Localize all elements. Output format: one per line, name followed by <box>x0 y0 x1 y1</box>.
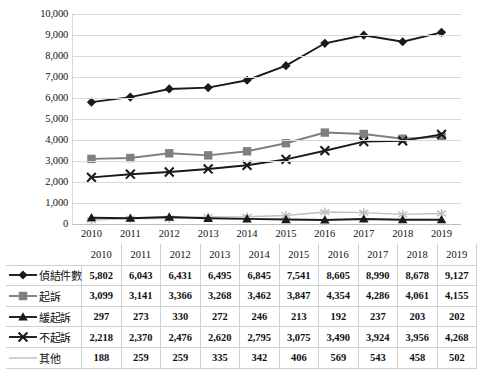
table-value-cell: 297 <box>82 306 122 327</box>
y-axis-tick-label: 9,000 <box>2 30 68 40</box>
line-chart: 10,0009,0008,0007,0006,0005,0004,0003,00… <box>0 0 471 232</box>
legend-label: 偵結件數 <box>39 267 82 283</box>
plot-area <box>72 14 461 224</box>
data-table: 2010201120122013201420152016201720182019… <box>6 244 477 369</box>
table-value-cell: 2,218 <box>82 327 122 348</box>
data-point-diamond <box>165 84 174 93</box>
table-row: 其他188259259335342406569543458502 <box>7 347 477 368</box>
table-value-cell: 9,127 <box>437 265 477 286</box>
table-row: 偵結件數5,8026,0436,4316,4956,8457,5418,6058… <box>7 265 477 286</box>
data-point-diamond <box>18 271 27 280</box>
legend-marker-square <box>8 290 38 302</box>
table-value-cell: 4,286 <box>358 286 398 307</box>
table-header-row: 2010201120122013201420152016201720182019 <box>7 245 477 266</box>
series-square <box>87 128 446 163</box>
legend-cell: 其他 <box>7 347 82 368</box>
y-axis-line <box>72 14 73 225</box>
table-value-cell: 3,924 <box>358 327 398 348</box>
x-axis-tick-label: 2011 <box>111 228 150 239</box>
data-point-diamond <box>281 61 290 70</box>
table-row: 緩起訴297273330272246213192237203202 <box>7 306 477 327</box>
table-value-cell: 2,476 <box>161 327 201 348</box>
table-year-header: 2014 <box>240 245 280 266</box>
table-value-cell: 272 <box>200 306 240 327</box>
series-line <box>91 32 441 102</box>
table-value-cell: 7,541 <box>279 265 319 286</box>
table-value-cell: 6,431 <box>161 265 201 286</box>
data-point-diamond <box>204 83 213 92</box>
gridline <box>72 77 461 78</box>
table-year-header: 2010 <box>82 245 122 266</box>
series-diamond <box>87 28 446 107</box>
table-year-header: 2017 <box>358 245 398 266</box>
legend-inner: 起訴 <box>8 288 81 304</box>
x-axis-tick-label: 2012 <box>150 228 189 239</box>
table-value-cell: 6,845 <box>240 265 280 286</box>
table-row: 起訴3,0993,1413,3663,2683,4623,8474,3544,2… <box>7 286 477 307</box>
series-line <box>91 217 441 220</box>
gridline <box>72 140 461 141</box>
table-value-cell: 3,268 <box>200 286 240 307</box>
y-axis-tick-label: 2,000 <box>2 177 68 187</box>
table-value-cell: 458 <box>398 347 438 368</box>
table-value-cell: 502 <box>437 347 477 368</box>
data-point-square <box>165 149 173 157</box>
legend-cell: 起訴 <box>7 286 82 307</box>
data-table-wrap: 2010201120122013201420152016201720182019… <box>6 244 465 342</box>
legend-inner: 緩起訴 <box>8 309 81 325</box>
table-value-cell: 335 <box>200 347 240 368</box>
data-point-square <box>204 151 212 159</box>
x-axis-tick-label: 2014 <box>228 228 267 239</box>
table-year-header: 2019 <box>437 245 477 266</box>
gridline <box>72 119 461 120</box>
table-year-header: 2018 <box>398 245 438 266</box>
gridline <box>72 224 461 225</box>
legend-cell: 偵結件數 <box>7 265 82 286</box>
x-axis-tick-label: 2010 <box>72 228 111 239</box>
table-value-cell: 3,847 <box>279 286 319 307</box>
y-axis-labels: 10,0009,0008,0007,0006,0005,0004,0003,00… <box>0 0 68 232</box>
data-point-square <box>360 130 368 138</box>
gridline <box>72 56 461 57</box>
legend-marker-triangle <box>8 311 38 323</box>
y-axis-tick-label: 7,000 <box>2 72 68 82</box>
gridline <box>72 161 461 162</box>
gridline <box>72 98 461 99</box>
data-point-square <box>243 147 251 155</box>
table-value-cell: 192 <box>319 306 359 327</box>
legend-marker-asterisk <box>8 352 38 364</box>
data-point-diamond <box>320 39 329 48</box>
table-value-cell: 3,099 <box>82 286 122 307</box>
table-value-cell: 3,366 <box>161 286 201 307</box>
y-axis-tick-label: 8,000 <box>2 51 68 61</box>
legend-label: 起訴 <box>39 288 60 304</box>
legend-marker-x <box>8 331 38 343</box>
table-value-cell: 6,043 <box>121 265 161 286</box>
x-axis-tick-label: 2015 <box>267 228 306 239</box>
table-value-cell: 3,141 <box>121 286 161 307</box>
gridline <box>72 14 461 15</box>
table-value-cell: 342 <box>240 347 280 368</box>
table-year-header: 2016 <box>319 245 359 266</box>
y-axis-tick-label: 1,000 <box>2 198 68 208</box>
y-axis-tick-label: 0 <box>2 219 68 229</box>
table-value-cell: 8,678 <box>398 265 438 286</box>
y-axis-tick-label: 3,000 <box>2 156 68 166</box>
y-axis-tick-label: 4,000 <box>2 135 68 145</box>
table-value-cell: 569 <box>319 347 359 368</box>
table-value-cell: 4,155 <box>437 286 477 307</box>
table-value-cell: 8,605 <box>319 265 359 286</box>
x-axis-tick-label: 2017 <box>344 228 383 239</box>
table-value-cell: 4,354 <box>319 286 359 307</box>
series-line <box>91 133 441 159</box>
table-year-header: 2015 <box>279 245 319 266</box>
legend-cell: 不起訴 <box>7 327 82 348</box>
legend-cell: 緩起訴 <box>7 306 82 327</box>
table-value-cell: 4,268 <box>437 327 477 348</box>
table-row: 不起訴2,2182,3702,4762,6202,7953,0753,4903,… <box>7 327 477 348</box>
x-axis-tick-label: 2016 <box>305 228 344 239</box>
table-year-header: 2012 <box>161 245 201 266</box>
table-value-cell: 5,802 <box>82 265 122 286</box>
series-asterisk <box>87 207 446 224</box>
table-value-cell: 3,490 <box>319 327 359 348</box>
